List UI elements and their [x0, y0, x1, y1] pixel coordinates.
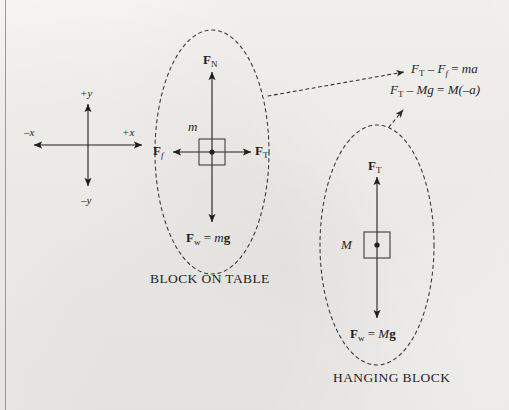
equation-2-rhs: M(–a)	[448, 82, 481, 97]
weight-expression-gravity: g	[224, 230, 231, 245]
axis-label-minus-y: –y	[81, 195, 91, 206]
equation-1-equals: =	[451, 61, 458, 76]
block-on-table-leader-line	[268, 72, 404, 96]
block-on-table-forces	[173, 72, 251, 222]
normal-force-subscript: N	[211, 59, 218, 69]
axis-label-minus-x: –x	[24, 127, 34, 138]
tension-force-subscript: T	[376, 165, 382, 175]
block-on-table-caption: BLOCK ON TABLE	[150, 272, 270, 286]
equation-2-lhs-symbol: F	[390, 82, 398, 97]
tension-force-subscript: T	[263, 150, 269, 160]
hanging-block-equation: FT – Mg = M(–a)	[390, 83, 480, 99]
coordinate-axes	[34, 104, 142, 186]
tension-force-symbol: F	[255, 143, 263, 158]
weight-expression-mass: M	[378, 326, 389, 341]
hanging-block-caption: HANGING BLOCK	[333, 371, 450, 385]
weight-force-symbol: F	[350, 326, 358, 341]
axis-label-plus-y: +y	[80, 88, 92, 99]
friction-force-subscript: f	[161, 150, 164, 160]
block-on-table-mass-label: m	[188, 120, 197, 133]
weight-force-label-table: Fw = mg	[186, 231, 230, 247]
hanging-block-leader-line	[389, 110, 403, 127]
block-on-table-equation: FT – Ff = ma	[411, 62, 478, 78]
block-on-table-center-dot	[209, 149, 214, 154]
equation-1-lhs-symbol: F	[411, 61, 419, 76]
physics-free-body-diagram-figure: +y –x +x –y FN Ff FT m Fw = mg BLOCK ON …	[0, 0, 509, 410]
hanging-block-center-dot	[374, 242, 379, 247]
equation-1-rhs: ma	[462, 61, 478, 76]
normal-force-symbol: F	[203, 52, 211, 67]
tension-force-symbol: F	[368, 158, 376, 173]
normal-force-label: FN	[203, 53, 217, 69]
weight-force-symbol: F	[186, 230, 194, 245]
tension-force-label-table: FT	[255, 144, 268, 160]
equation-2-term2: Mg	[416, 82, 433, 97]
friction-force-symbol: F	[153, 143, 161, 158]
weight-expression-gravity: g	[389, 326, 396, 341]
weight-force-label-hanging: Fw = Mg	[350, 327, 396, 343]
weight-expression-mass: m	[214, 230, 223, 245]
tension-force-label-hanging: FT	[368, 159, 381, 175]
hanging-block-mass-label: M	[341, 238, 352, 251]
friction-force-label: Ff	[153, 144, 163, 160]
axis-label-plus-x: +x	[122, 127, 134, 138]
